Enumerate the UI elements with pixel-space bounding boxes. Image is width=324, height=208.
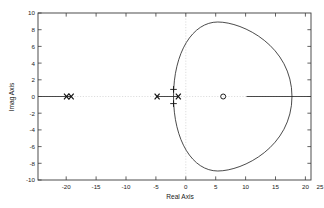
y-tick-label: 8 bbox=[32, 26, 36, 33]
x-axis-title: Real Axis bbox=[166, 193, 194, 200]
y-axis-title: Imag Axis bbox=[8, 82, 16, 111]
x-tick-label: -10 bbox=[122, 183, 132, 190]
y-tick-label: 4 bbox=[32, 60, 36, 67]
y-tick-label: -2 bbox=[29, 110, 35, 117]
x-axis-tick-labels: -20 -15 -10 -5 0 5 10 15 20 25 bbox=[62, 183, 324, 190]
x-tick-label: 0 bbox=[184, 183, 188, 190]
x-tick-label: 15 bbox=[272, 183, 279, 190]
y-tick-label: -8 bbox=[29, 160, 35, 167]
root-locus-figure: -20 -15 -10 -5 0 5 10 15 20 25 10 8 6 4 … bbox=[0, 0, 324, 208]
x-tick-label: -5 bbox=[153, 183, 159, 190]
x-tick-label: 5 bbox=[214, 183, 218, 190]
y-tick-label: -10 bbox=[26, 176, 36, 183]
y-tick-label: -6 bbox=[29, 143, 35, 150]
y-axis-tick-labels: 10 8 6 4 2 0 -2 -4 -6 -8 -10 bbox=[26, 9, 36, 183]
x-tick-label: 10 bbox=[242, 183, 249, 190]
y-tick-label: 6 bbox=[32, 43, 36, 50]
y-tick-label: 10 bbox=[28, 9, 35, 16]
x-tick-label: 25 bbox=[317, 183, 324, 190]
y-tick-label: -4 bbox=[29, 126, 35, 133]
y-tick-label: 0 bbox=[32, 93, 36, 100]
x-tick-label: -15 bbox=[92, 183, 102, 190]
x-tick-label: 20 bbox=[302, 183, 309, 190]
x-tick-label: -20 bbox=[62, 183, 72, 190]
plot-canvas: -20 -15 -10 -5 0 5 10 15 20 25 10 8 6 4 … bbox=[0, 0, 324, 208]
y-tick-label: 2 bbox=[32, 76, 36, 83]
